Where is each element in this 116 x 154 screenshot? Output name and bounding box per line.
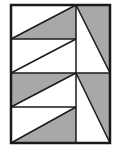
divider-line xyxy=(11,39,76,73)
triangle-tiling-diagram xyxy=(0,0,116,154)
